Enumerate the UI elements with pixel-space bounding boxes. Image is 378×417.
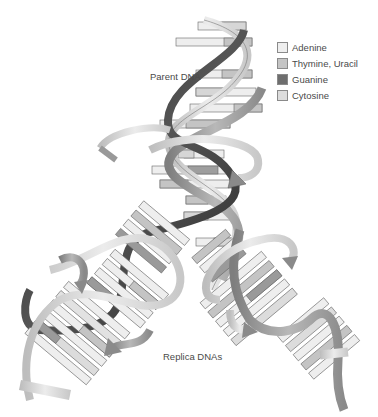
legend-label: Thymine, Uracil bbox=[292, 58, 358, 69]
legend-item-guanine: Guanine bbox=[277, 71, 358, 87]
parent-dna-label: Parent DNA bbox=[150, 71, 201, 82]
adenine-swatch bbox=[277, 42, 288, 53]
thymine-swatch bbox=[277, 58, 288, 69]
guanine-swatch bbox=[277, 74, 288, 85]
legend: Adenine Thymine, Uracil Guanine Cytosine bbox=[277, 39, 358, 103]
legend-label: Cytosine bbox=[292, 90, 329, 101]
legend-label: Guanine bbox=[292, 74, 328, 85]
cytosine-swatch bbox=[277, 90, 288, 101]
legend-item-thymine-uracil: Thymine, Uracil bbox=[277, 55, 358, 71]
legend-item-cytosine: Cytosine bbox=[277, 87, 358, 103]
legend-item-adenine: Adenine bbox=[277, 39, 358, 55]
replica-dnas-label: Replica DNAs bbox=[163, 351, 222, 362]
legend-label: Adenine bbox=[292, 42, 327, 53]
dna-replication-diagram: Parent DNA Replica DNAs Adenine Thymine,… bbox=[0, 0, 378, 417]
